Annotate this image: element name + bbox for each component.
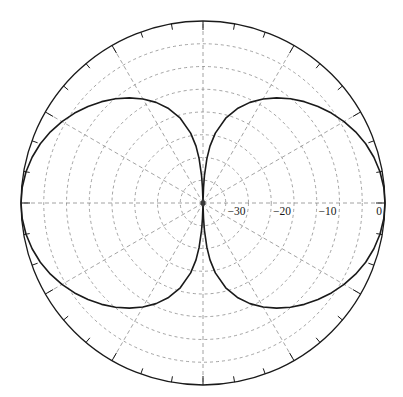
radial-tick-label: −20 (273, 205, 291, 217)
polar-chart: −30−20−100 (0, 0, 403, 397)
origin-dot-shape (200, 200, 205, 205)
center-origin-marker (200, 200, 205, 205)
radial-tick-label: 0 (376, 205, 382, 217)
chart-background (0, 0, 403, 397)
radial-tick-label: −30 (228, 205, 246, 217)
radial-tick-label: −10 (319, 205, 337, 217)
